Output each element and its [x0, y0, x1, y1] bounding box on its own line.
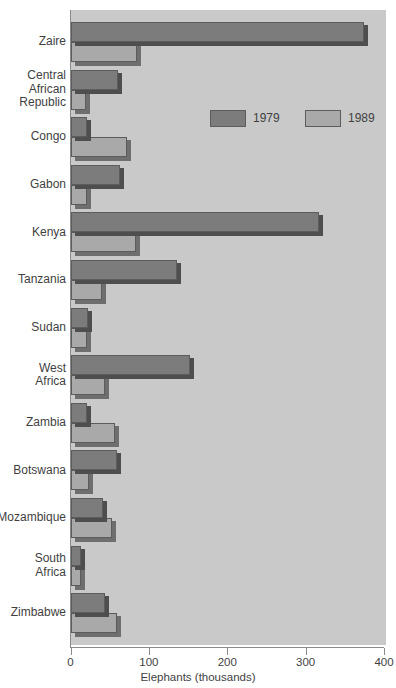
x-tick-label-100: 100 [139, 656, 158, 668]
bar-bottom-shade [75, 185, 124, 189]
bar-bottom-shade [75, 538, 117, 542]
category-label-central-african-republic: Central African Republic [19, 69, 66, 110]
bar-bottom-shade [75, 328, 92, 332]
bar-face [71, 355, 191, 375]
bar-bottom-shade [75, 518, 108, 522]
category-label-zaire: Zaire [39, 35, 66, 49]
legend-label-1979: 1979 [253, 111, 280, 125]
x-tick-300 [306, 648, 307, 655]
bar-bottom-shade [75, 137, 91, 141]
bar-face [71, 260, 178, 280]
x-tick-0 [71, 648, 72, 655]
bar-bottom-shade [75, 280, 182, 284]
bar-bottom-shade [75, 395, 109, 399]
category-label-gabon: Gabon [30, 178, 66, 192]
bar-face [71, 498, 104, 518]
bar-mozambique-1979 [71, 498, 104, 518]
legend-label-1989: 1989 [348, 111, 375, 125]
bar-bottom-shade [75, 157, 131, 161]
bar-bottom-shade [75, 110, 91, 114]
legend-swatch-1989 [305, 110, 341, 127]
bar-zaire-1979 [71, 22, 364, 42]
bar-bottom-shade [75, 42, 368, 46]
x-tick-400 [384, 648, 385, 655]
bar-central-african-republic-1979 [71, 70, 119, 90]
bar-zimbabwe-1979 [71, 593, 105, 613]
bar-zambia-1979 [71, 403, 87, 423]
legend-item-1989: 1989 [305, 109, 375, 127]
bar-bottom-shade [75, 62, 142, 66]
bar-bottom-shade [75, 566, 85, 570]
legend-swatch-1979 [210, 110, 246, 127]
bar-gabon-1979 [71, 165, 120, 185]
bar-bottom-shade [75, 232, 323, 236]
category-label-mozambique: Mozambique [0, 511, 66, 525]
bar-face [71, 546, 81, 566]
bar-bottom-shade [75, 490, 93, 494]
category-label-kenya: Kenya [32, 226, 66, 240]
bar-face [71, 117, 87, 137]
plot-area-background [71, 10, 386, 645]
bar-face [71, 403, 87, 423]
bar-face [71, 22, 364, 42]
category-label-west-africa: West Africa [35, 362, 66, 389]
bar-bottom-shade [75, 375, 195, 379]
legend-item-1979: 1979 [210, 109, 280, 127]
bar-bottom-shade [75, 90, 123, 94]
category-label-botswana: Botswana [13, 464, 66, 478]
x-tick-100 [149, 648, 150, 655]
bar-bottom-shade [75, 423, 91, 427]
category-label-tanzania: Tanzania [18, 273, 66, 287]
bar-bottom-shade [75, 300, 106, 304]
bar-south-africa-1979 [71, 546, 81, 566]
category-label-south-africa: South Africa [35, 552, 66, 579]
bar-face [71, 308, 88, 328]
category-label-zambia: Zambia [26, 416, 66, 430]
bar-bottom-shade [75, 348, 91, 352]
bar-bottom-shade [75, 586, 85, 590]
bar-face [71, 165, 120, 185]
bar-bottom-shade [75, 613, 109, 617]
bar-tanzania-1979 [71, 260, 178, 280]
bar-kenya-1979 [71, 212, 319, 232]
bar-face [71, 70, 119, 90]
x-tick-label-300: 300 [296, 656, 315, 668]
bar-bottom-shade [75, 633, 121, 637]
bar-bottom-shade [75, 252, 140, 256]
x-tick-label-200: 200 [218, 656, 237, 668]
bar-bottom-shade [75, 470, 121, 474]
bar-west-africa-1979 [71, 355, 191, 375]
x-tick-200 [227, 648, 228, 655]
elephant-population-bar-chart: 0100200300400 Elephants (thousands) Zair… [0, 0, 396, 688]
bar-face [71, 450, 117, 470]
bar-botswana-1979 [71, 450, 117, 470]
bar-face [71, 593, 105, 613]
bar-bottom-shade [75, 205, 91, 209]
bar-congo-1979 [71, 117, 87, 137]
category-label-sudan: Sudan [31, 321, 66, 335]
x-tick-label-0: 0 [67, 656, 73, 668]
x-axis-title: Elephants (thousands) [0, 671, 396, 683]
category-label-zimbabwe: Zimbabwe [11, 606, 66, 620]
bar-sudan-1979 [71, 308, 88, 328]
bar-face [71, 212, 319, 232]
category-label-congo: Congo [31, 130, 66, 144]
bar-bottom-shade [75, 443, 120, 447]
x-tick-label-400: 400 [374, 656, 393, 668]
